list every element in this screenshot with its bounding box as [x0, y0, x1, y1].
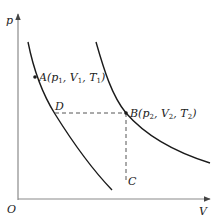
- pv-diagram: p V O A(p1, V1, T1) B(p2, V2, T2) D C: [0, 0, 219, 221]
- point-A-marker: [33, 75, 37, 79]
- isotherm-lower-curve: [28, 42, 112, 190]
- x-axis-label: V: [199, 205, 208, 218]
- isotherm-upper-curve: [96, 42, 210, 163]
- y-axis-label: p: [6, 14, 13, 27]
- point-D-label: D: [54, 100, 64, 113]
- origin-label: O: [7, 203, 16, 216]
- point-A-label: A(p1, V1, T1): [38, 71, 105, 85]
- point-B-marker: [124, 111, 128, 115]
- point-B-label: B(p2, V2, T2): [129, 107, 196, 121]
- point-C-label: C: [128, 175, 137, 188]
